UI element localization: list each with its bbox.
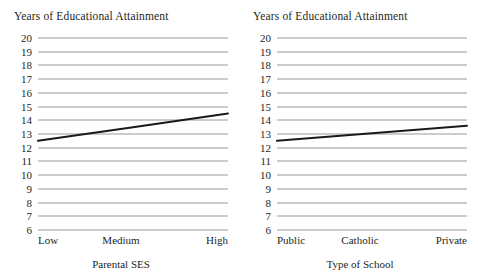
x-tick-label-private: Private <box>436 234 467 246</box>
chart-panel-left: Years of Educational Attainment 20191817… <box>0 0 239 280</box>
x-axis-ticks-left: Low Medium High <box>14 234 228 248</box>
series-line-right <box>277 38 467 230</box>
x-tick-label-public: Public <box>277 234 305 246</box>
panel-title-left: Years of Educational Attainment <box>14 10 169 22</box>
y-tick-label-13: 13 <box>14 129 32 140</box>
chart-panel-right: Years of Educational Attainment 20191817… <box>239 0 478 280</box>
data-series-path <box>277 126 467 141</box>
x-axis-label-right: Type of School <box>253 258 467 270</box>
y-tick-label-18: 18 <box>14 60 32 71</box>
x-tick-label-catholic: Catholic <box>341 234 378 246</box>
panel-title-right: Years of Educational Attainment <box>253 10 408 22</box>
y-tick-label-16: 16 <box>253 87 271 98</box>
y-tick-label-11: 11 <box>253 156 271 167</box>
y-tick-label-19: 19 <box>14 46 32 57</box>
y-tick-label-20: 20 <box>14 33 32 44</box>
y-tick-label-19: 19 <box>253 46 271 57</box>
plot-area-left: 20191817161514131211109876 <box>14 38 228 230</box>
y-tick-label-7: 7 <box>253 211 271 222</box>
figure-canvas: Years of Educational Attainment 20191817… <box>0 0 478 280</box>
y-tick-label-13: 13 <box>253 129 271 140</box>
y-tick-label-18: 18 <box>253 60 271 71</box>
y-tick-label-10: 10 <box>14 170 32 181</box>
y-tick-label-14: 14 <box>253 115 271 126</box>
y-tick-label-17: 17 <box>253 74 271 85</box>
y-tick-label-8: 8 <box>14 197 32 208</box>
x-axis-label-left: Parental SES <box>14 258 228 270</box>
y-tick-label-9: 9 <box>253 183 271 194</box>
y-tick-label-12: 12 <box>14 142 32 153</box>
series-line-left <box>38 38 228 230</box>
y-tick-label-20: 20 <box>253 33 271 44</box>
y-tick-label-12: 12 <box>253 142 271 153</box>
y-tick-label-10: 10 <box>253 170 271 181</box>
y-tick-label-17: 17 <box>14 74 32 85</box>
y-tick-label-16: 16 <box>14 87 32 98</box>
x-tick-label-low: Low <box>38 234 58 246</box>
y-tick-label-7: 7 <box>14 211 32 222</box>
y-tick-label-15: 15 <box>14 101 32 112</box>
y-tick-label-14: 14 <box>14 115 32 126</box>
x-tick-label-medium: Medium <box>102 234 139 246</box>
y-tick-label-11: 11 <box>14 156 32 167</box>
x-tick-label-high: High <box>206 234 228 246</box>
y-tick-label-9: 9 <box>14 183 32 194</box>
x-axis-ticks-right: Public Catholic Private <box>253 234 467 248</box>
y-tick-label-8: 8 <box>253 197 271 208</box>
plot-area-right: 20191817161514131211109876 <box>253 38 467 230</box>
y-tick-label-15: 15 <box>253 101 271 112</box>
data-series-path <box>38 113 228 140</box>
